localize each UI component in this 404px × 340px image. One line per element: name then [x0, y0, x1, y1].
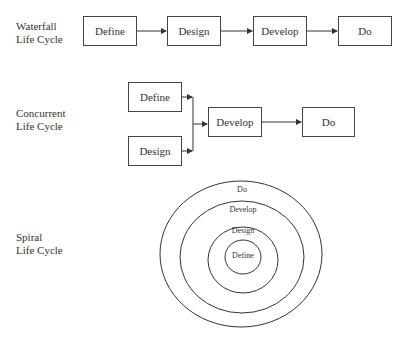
concurrent-label: Concurrent Life Cycle: [16, 107, 65, 133]
diagram-lines: [0, 0, 404, 340]
waterfall-define-box: Define: [83, 16, 137, 46]
spiral-label: Spiral Life Cycle: [16, 231, 63, 257]
waterfall-label: Waterfall Life Cycle: [16, 20, 63, 46]
ring-label-design: Design: [232, 226, 255, 235]
ring-label-define: Define: [232, 251, 254, 260]
concurrent-design-box: Design: [128, 136, 182, 166]
concurrent-define-box: Define: [128, 82, 182, 112]
ring-label-do: Do: [237, 185, 247, 194]
concurrent-do-box: Do: [302, 107, 355, 137]
ring-label-develop: Develop: [229, 205, 256, 214]
ring-design: [208, 227, 278, 293]
waterfall-develop-box: Develop: [253, 16, 307, 46]
waterfall-do-box: Do: [338, 16, 392, 46]
waterfall-design-box: Design: [167, 16, 221, 46]
concurrent-develop-box: Develop: [208, 107, 262, 137]
